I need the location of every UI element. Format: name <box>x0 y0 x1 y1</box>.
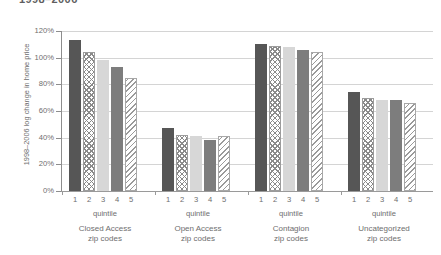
x-tick-mark-group-4 <box>341 191 342 195</box>
quintile-tick-3: 3 <box>97 195 109 204</box>
quintile-tick-5: 5 <box>125 195 137 204</box>
bar-q2 <box>83 52 95 191</box>
y-tick-label-40: 40% <box>2 133 54 142</box>
quintile-axis-label: quintile <box>348 209 420 218</box>
bar-q4 <box>111 67 123 191</box>
x-axis-group-label-1: 12345quintileClosed Accesszip codes <box>69 195 141 244</box>
quintile-tick-3: 3 <box>376 195 388 204</box>
bar-q3 <box>97 60 109 191</box>
quintile-tick-5: 5 <box>218 195 230 204</box>
bar-group-4 <box>348 31 420 191</box>
x-axis-group-label-4: 12345quintileUncategorizedzip codes <box>348 195 420 244</box>
bar-q4 <box>390 100 402 191</box>
group-name-line2: zip codes <box>155 234 241 244</box>
quintile-tick-3: 3 <box>190 195 202 204</box>
bar-q1 <box>255 44 267 191</box>
quintile-tick-4: 4 <box>111 195 123 204</box>
y-axis-tick-labels: 120%100%80%60%40%20%0% <box>0 31 54 192</box>
group-name-line1: Contagion <box>248 224 334 234</box>
bar-chart: 1998–2006 1998–2006 log change in home p… <box>0 0 441 255</box>
quintile-tick-1: 1 <box>69 195 81 204</box>
group-name-line1: Open Access <box>155 224 241 234</box>
bars-container <box>255 31 323 191</box>
bar-q3 <box>190 136 202 191</box>
bar-q2 <box>269 46 281 191</box>
quintile-tick-2: 2 <box>83 195 95 204</box>
group-name-line2: zip codes <box>248 234 334 244</box>
y-tick-label-60: 60% <box>2 106 54 115</box>
y-tick-mark-20 <box>56 164 61 165</box>
bar-q5 <box>218 136 230 191</box>
y-tick-mark-0 <box>56 191 61 192</box>
group-name: Open Accesszip codes <box>155 224 241 244</box>
y-tick-label-20: 20% <box>2 159 54 168</box>
quintile-axis-label: quintile <box>162 209 234 218</box>
group-name-line2: zip codes <box>341 234 427 244</box>
quintile-numbers: 12345 <box>162 195 234 204</box>
x-axis-group-label-3: 12345quintileContagionzip codes <box>255 195 327 244</box>
quintile-tick-4: 4 <box>204 195 216 204</box>
quintile-tick-2: 2 <box>269 195 281 204</box>
y-tick-label-0: 0% <box>2 186 54 195</box>
quintile-numbers: 12345 <box>69 195 141 204</box>
bar-q5 <box>125 78 137 191</box>
bars-container <box>69 31 137 191</box>
bar-q3 <box>283 47 295 191</box>
quintile-tick-5: 5 <box>404 195 416 204</box>
bar-group-2 <box>162 31 234 191</box>
y-tick-mark-60 <box>56 111 61 112</box>
group-name: Uncategorizedzip codes <box>341 224 427 244</box>
y-tick-label-100: 100% <box>2 53 54 62</box>
bar-q3 <box>376 100 388 191</box>
quintile-tick-5: 5 <box>311 195 323 204</box>
quintile-tick-2: 2 <box>176 195 188 204</box>
group-name-line1: Uncategorized <box>341 224 427 234</box>
bar-q4 <box>204 140 216 191</box>
x-tick-mark-group-2 <box>155 191 156 195</box>
x-tick-mark-group-3 <box>248 191 249 195</box>
bars-container <box>162 31 230 191</box>
bar-q1 <box>162 128 174 191</box>
chart-title: 1998–2006 <box>19 0 78 4</box>
bar-group-3 <box>255 31 327 191</box>
bar-q1 <box>69 40 81 191</box>
x-axis-line <box>61 191 433 192</box>
group-name: Contagionzip codes <box>248 224 334 244</box>
bar-q2 <box>176 135 188 191</box>
y-tick-mark-80 <box>56 84 61 85</box>
quintile-numbers: 12345 <box>348 195 420 204</box>
y-tick-label-120: 120% <box>2 26 54 35</box>
quintile-tick-3: 3 <box>283 195 295 204</box>
quintile-tick-1: 1 <box>348 195 360 204</box>
y-axis-line <box>61 31 62 192</box>
y-tick-mark-40 <box>56 138 61 139</box>
bar-q5 <box>311 52 323 191</box>
group-name-line1: Closed Access <box>62 224 148 234</box>
y-tick-mark-100 <box>56 58 61 59</box>
group-name-line2: zip codes <box>62 234 148 244</box>
bar-q4 <box>297 50 309 191</box>
y-tick-mark-120 <box>56 31 61 32</box>
bar-q1 <box>348 92 360 191</box>
x-axis-group-label-2: 12345quintileOpen Accesszip codes <box>162 195 234 244</box>
bar-q2 <box>362 98 374 191</box>
plot-area <box>61 31 433 191</box>
quintile-tick-4: 4 <box>297 195 309 204</box>
quintile-axis-label: quintile <box>69 209 141 218</box>
quintile-tick-1: 1 <box>255 195 267 204</box>
bars-container <box>348 31 416 191</box>
quintile-axis-label: quintile <box>255 209 327 218</box>
x-tick-mark-group-1 <box>62 191 63 195</box>
bar-group-1 <box>69 31 141 191</box>
group-name: Closed Accesszip codes <box>62 224 148 244</box>
bar-q5 <box>404 103 416 191</box>
quintile-tick-2: 2 <box>362 195 374 204</box>
quintile-tick-1: 1 <box>162 195 174 204</box>
quintile-numbers: 12345 <box>255 195 327 204</box>
y-tick-label-80: 80% <box>2 79 54 88</box>
quintile-tick-4: 4 <box>390 195 402 204</box>
